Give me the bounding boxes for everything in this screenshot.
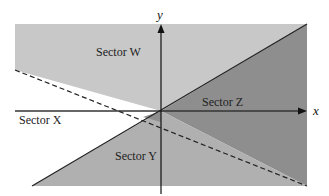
sector-w-label: Sector W [96,45,141,59]
sector-z-label: Sector Z [202,95,243,109]
sector-x-label: Sector X [19,113,62,127]
sector-diagram: y x Sector W Sector X Sector Y Sector Z [0,0,329,196]
sector-y-label: Sector Y [115,149,157,163]
x-axis-label: x [312,103,319,118]
y-axis-label: y [155,7,163,22]
